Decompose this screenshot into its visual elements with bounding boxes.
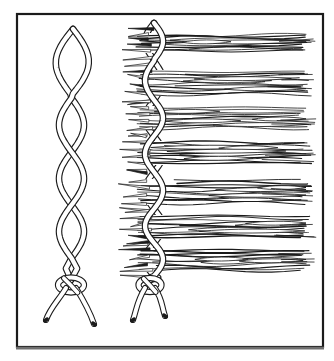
left-overhand-knot: [42, 278, 98, 328]
grass-fray-tip: [121, 203, 146, 206]
grass-fray-tip: [128, 28, 154, 31]
twined-cord-illustration: [0, 0, 334, 361]
grass-fray-tip: [119, 248, 151, 251]
grass-fray-tip: [127, 240, 150, 243]
right-twined-cord: [118, 23, 316, 324]
figure-page: [0, 0, 334, 361]
right-overhand-knot: [129, 278, 169, 324]
grass-fray-tip: [122, 100, 151, 103]
grass-fray-tip: [123, 56, 154, 60]
left-twisted-cord: [42, 29, 98, 328]
